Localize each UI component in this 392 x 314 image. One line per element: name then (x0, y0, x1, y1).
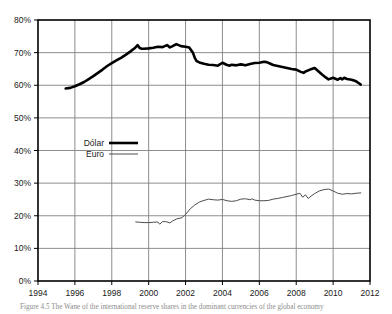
x-tick-label: 2004 (213, 288, 232, 298)
y-tick-label: 0% (19, 276, 32, 286)
legend-label-euro: Euro (86, 149, 104, 159)
y-tick-label: 10% (14, 243, 31, 253)
chart-figure: 0%10%20%30%40%50%60%70%80% 1994199619982… (0, 0, 392, 314)
y-tick-label: 20% (14, 211, 31, 221)
x-tick-label: 2000 (139, 288, 158, 298)
x-tick-label: 1994 (29, 288, 48, 298)
y-tick-label: 50% (14, 113, 31, 123)
y-tick-label: 80% (14, 15, 31, 25)
y-tick-label: 40% (14, 146, 31, 156)
x-tick-label: 2006 (250, 288, 269, 298)
x-tick-label: 2008 (287, 288, 306, 298)
legend-label-dlar: Dólar (84, 138, 104, 148)
x-tick-label: 1998 (102, 288, 121, 298)
y-tick-label: 30% (14, 178, 31, 188)
x-tick-label: 2012 (361, 288, 380, 298)
x-tick-label: 2002 (176, 288, 195, 298)
figure-caption: Figure 4.5 The Wane of the international… (20, 303, 386, 312)
x-axis-tick-labels: 1994199619982000200220042006200820102012 (29, 288, 380, 298)
x-tick-label: 2010 (324, 288, 343, 298)
y-tick-label: 60% (14, 80, 31, 90)
y-axis-tick-labels: 0%10%20%30%40%50%60%70%80% (14, 15, 31, 286)
y-tick-label: 70% (14, 48, 31, 58)
x-tick-label: 1996 (65, 288, 84, 298)
line-chart: 0%10%20%30%40%50%60%70%80% 1994199619982… (0, 0, 392, 314)
